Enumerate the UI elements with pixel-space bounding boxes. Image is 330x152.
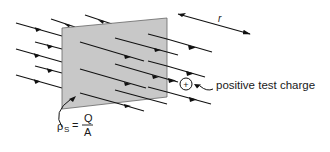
test-charge: + positive test charge (180, 78, 315, 91)
charged-sheet-diagram: r + positive test charge ρ S = Q A (0, 0, 330, 152)
equals-sign: = (72, 119, 78, 131)
denominator: A (84, 126, 92, 138)
distance-arrow: r (178, 13, 250, 34)
charged-plate (62, 18, 167, 109)
numerator: Q (84, 112, 93, 124)
test-charge-label: positive test charge (216, 79, 315, 91)
rho-symbol: ρ (57, 120, 63, 132)
rho-subscript: S (64, 125, 69, 134)
plus-sign: + (183, 80, 188, 90)
distance-label: r (218, 13, 222, 24)
